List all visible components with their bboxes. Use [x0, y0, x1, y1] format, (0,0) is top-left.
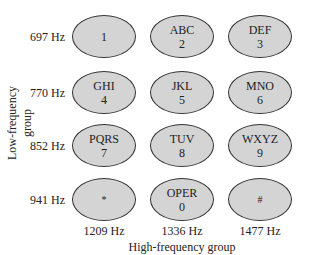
key-digit: 5: [179, 93, 185, 107]
key-hash: #: [228, 178, 292, 221]
key-letters: MNO: [246, 79, 274, 93]
key-star: *: [72, 178, 136, 221]
key-digit: 0: [179, 200, 185, 214]
key-digit: 3: [257, 37, 263, 51]
key-letters: ABC: [170, 23, 195, 37]
key-letters: WXYZ: [242, 132, 278, 146]
key-8: TUV 8: [150, 124, 214, 167]
column-label-1336: 1336 Hz: [150, 224, 214, 239]
key-digit: 2: [179, 37, 185, 51]
key-digit: 9: [257, 146, 263, 160]
key-digit: #: [258, 193, 263, 207]
key-6: MNO 6: [228, 71, 292, 114]
key-3: DEF 3: [228, 15, 292, 58]
key-5: JKL 5: [150, 71, 214, 114]
key-digit: 6: [257, 93, 263, 107]
key-letters: TUV: [170, 132, 195, 146]
key-letters: PQRS: [89, 132, 119, 146]
key-9: WXYZ 9: [228, 124, 292, 167]
row-label-697: 697 Hz: [30, 30, 70, 45]
column-label-1477: 1477 Hz: [228, 224, 292, 239]
row-label-852: 852 Hz: [30, 139, 70, 154]
key-digit: 1: [101, 30, 107, 44]
key-4: GHI 4: [72, 71, 136, 114]
key-letters: GHI: [93, 79, 114, 93]
key-1: 1: [72, 15, 136, 58]
key-digit: *: [102, 193, 107, 207]
key-7: PQRS 7: [72, 124, 136, 167]
key-letters: DEF: [249, 23, 272, 37]
row-label-941: 941 Hz: [30, 193, 70, 208]
x-axis-label: High-frequency group: [72, 240, 292, 255]
key-0: OPER 0: [150, 178, 214, 221]
key-digit: 7: [101, 146, 107, 160]
column-label-1209: 1209 Hz: [72, 224, 136, 239]
key-digit: 4: [101, 93, 107, 107]
row-label-770: 770 Hz: [30, 86, 70, 101]
key-2: ABC 2: [150, 15, 214, 58]
key-letters: JKL: [172, 79, 193, 93]
key-digit: 8: [179, 146, 185, 160]
key-letters: OPER: [167, 186, 198, 200]
